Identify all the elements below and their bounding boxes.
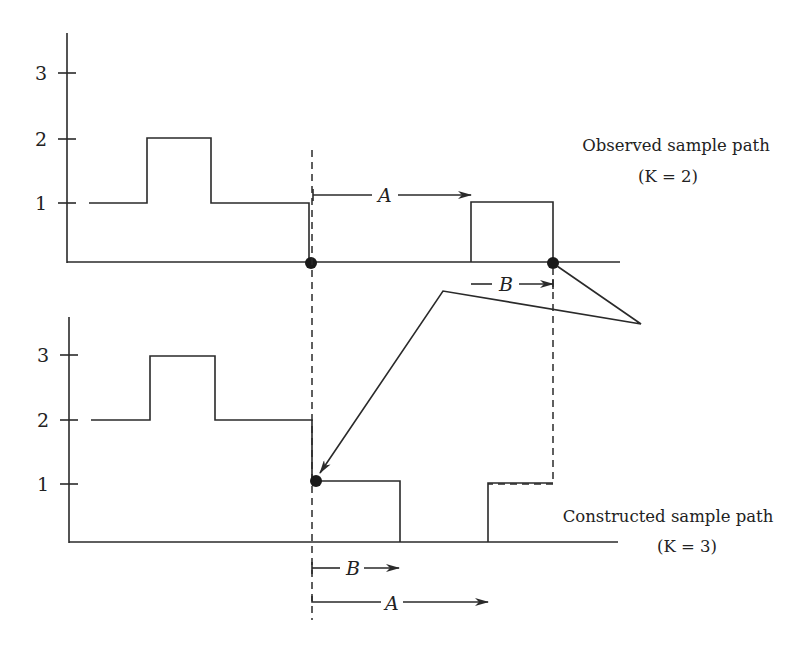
lower-a-arrow-left	[312, 596, 381, 602]
upper-tick-label-2: 2	[35, 128, 47, 150]
lower-a-label: A	[383, 592, 399, 614]
sample-path-diagram: 3 2 1 A B Observed sample path (K = 2) 3…	[0, 0, 810, 645]
lower-b-label: B	[345, 557, 360, 579]
lower-panel: 3 2 1 B A Constructed sample path (K = 3…	[37, 317, 774, 614]
lower-event-dot	[310, 475, 322, 487]
upper-caption-k: (K = 2)	[638, 167, 698, 186]
constructed-path-second-step	[488, 483, 553, 542]
observed-path-second-pulse	[471, 202, 553, 262]
constructed-sample-path	[91, 356, 400, 542]
upper-b-label: B	[498, 273, 513, 295]
lower-tick-label-2: 2	[37, 409, 49, 431]
upper-tick-label-3: 3	[35, 62, 47, 84]
observed-sample-path	[89, 138, 309, 262]
upper-caption-title: Observed sample path	[582, 136, 770, 155]
upper-event-dot-right	[547, 257, 559, 269]
upper-a-label: A	[376, 184, 392, 206]
lower-caption-title: Constructed sample path	[563, 507, 774, 526]
lower-tick-label-1: 1	[37, 473, 49, 495]
upper-event-dot-left	[305, 257, 317, 269]
lower-caption-k: (K = 3)	[657, 537, 717, 556]
callout-line	[320, 266, 641, 473]
lower-tick-label-3: 3	[37, 344, 49, 366]
upper-panel: 3 2 1 A B Observed sample path (K = 2)	[35, 33, 770, 295]
upper-tick-label-1: 1	[35, 192, 47, 214]
